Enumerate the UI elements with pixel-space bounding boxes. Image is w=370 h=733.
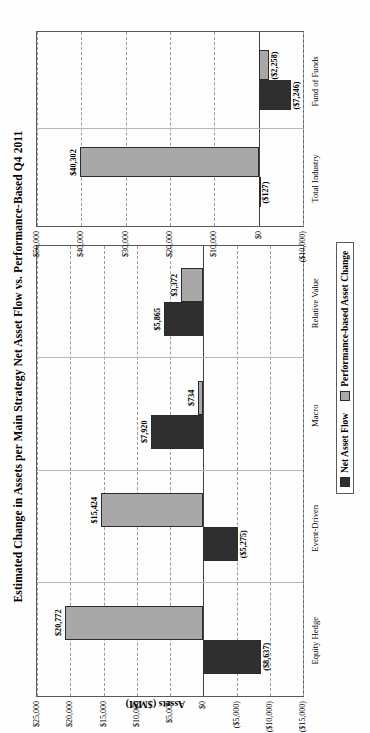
bar-value-label: $5,865 xyxy=(153,308,162,331)
gridline xyxy=(303,246,304,696)
category-separator xyxy=(37,583,303,584)
bar-performance-based xyxy=(65,606,203,640)
bar-value-label: ($127) xyxy=(261,182,270,204)
bar-performance-based xyxy=(259,51,269,81)
y-axis-tick-label: ($10,000) xyxy=(298,231,307,265)
bar-value-label: ($8,637) xyxy=(262,643,271,671)
bar-net-asset-flow xyxy=(259,81,291,111)
gridline xyxy=(303,32,304,226)
rotated-figure-wrapper: Estimated Change in Assets per Main Stra… xyxy=(0,0,370,733)
gridline xyxy=(37,32,38,226)
y-axis-tick-label: $50,000 xyxy=(32,231,41,265)
category-separator xyxy=(37,128,303,129)
category-separator xyxy=(37,470,303,471)
chart-figure: Estimated Change in Assets per Main Stra… xyxy=(0,0,370,733)
legend-item-net-asset-flow: Net Asset Flow xyxy=(340,413,350,487)
bar-performance-based xyxy=(198,381,203,415)
chart-title: Estimated Change in Assets per Main Stra… xyxy=(12,0,24,733)
zero-line xyxy=(203,246,204,696)
gridline xyxy=(126,32,127,226)
chart-legend: Net Asset Flow Performance-based Asset C… xyxy=(336,242,354,494)
y-axis-title: Assets ($MM) xyxy=(111,699,201,710)
x-axis-category-label: Event-Driven xyxy=(310,505,320,552)
plot-area-totals: ($127)$40,302($7,246)($2,258) xyxy=(37,32,303,226)
y-axis-tick-label: $20,000 xyxy=(165,231,174,265)
bar-performance-based xyxy=(80,148,259,178)
gridline xyxy=(37,246,38,696)
bar-net-asset-flow xyxy=(164,302,203,336)
bar-performance-based xyxy=(181,268,203,302)
bar-net-asset-flow xyxy=(203,640,260,674)
y-axis-tick-label: $15,000 xyxy=(98,701,107,733)
bar-value-label: $734 xyxy=(187,390,196,406)
y-axis-tick-label: ($15,000) xyxy=(298,701,307,733)
x-axis-category-label: Fund of Funds xyxy=(310,56,320,106)
bar-value-label: ($2,258) xyxy=(270,52,279,80)
chart-panel-totals: ($127)$40,302($7,246)($2,258) xyxy=(36,31,304,227)
x-axis-category-label: Total Industry xyxy=(310,154,320,202)
y-axis-tick-label: $0 xyxy=(253,231,262,265)
y-axis-tick-label: $40,000 xyxy=(76,231,85,265)
y-axis-tick-label: $30,000 xyxy=(120,231,129,265)
bar-value-label: ($7,246) xyxy=(292,82,301,110)
plot-area-main: ($8,637)$20,772($5,275)$15,424$7,920$734… xyxy=(37,246,303,696)
gridline xyxy=(214,32,215,226)
legend-swatch-icon-performance-based xyxy=(340,391,350,401)
x-axis-category-label: Equity Hedge xyxy=(310,617,320,665)
gridline xyxy=(81,32,82,226)
y-axis-tick-label: ($10,000) xyxy=(264,701,273,733)
y-axis-tick-label: ($5,000) xyxy=(231,701,240,733)
chart-panel-main-strategies: ($8,637)$20,772($5,275)$15,424$7,920$734… xyxy=(36,245,304,697)
gridline xyxy=(237,246,238,696)
bar-performance-based xyxy=(101,493,204,527)
legend-item-performance-based: Performance-based Asset Change xyxy=(340,251,350,401)
category-separator xyxy=(37,358,303,359)
bar-net-asset-flow xyxy=(151,415,204,449)
y-axis-tick-label: $10,000 xyxy=(209,231,218,265)
y-axis-tick-label: $25,000 xyxy=(32,701,41,733)
legend-swatch-icon-net-asset-flow xyxy=(340,477,350,487)
y-axis-tick-label: $20,000 xyxy=(65,701,74,733)
legend-label-performance-based: Performance-based Asset Change xyxy=(340,251,350,387)
bar-value-label: $15,424 xyxy=(90,497,99,524)
gridline xyxy=(270,246,271,696)
bar-value-label: ($5,275) xyxy=(239,530,248,558)
bar-value-label: $7,920 xyxy=(140,420,149,443)
gridline xyxy=(170,32,171,226)
legend-label-net-asset-flow: Net Asset Flow xyxy=(340,413,350,473)
bar-value-label: $20,772 xyxy=(54,609,63,636)
x-axis-category-label: Macro xyxy=(310,405,320,427)
bar-value-label: $3,372 xyxy=(170,274,179,297)
bar-value-label: $40,302 xyxy=(69,149,78,176)
x-axis-category-label: Relative Value xyxy=(310,278,320,328)
bar-net-asset-flow xyxy=(203,527,238,561)
